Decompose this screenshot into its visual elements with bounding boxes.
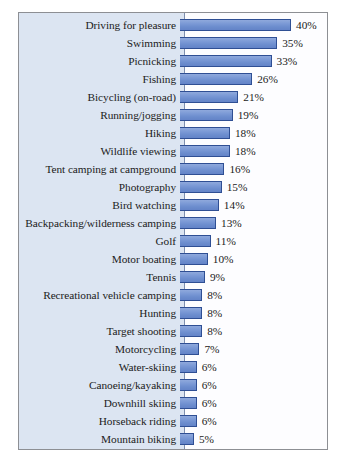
- bar-row: Horseback riding6%: [19, 412, 327, 430]
- bar-row: Motorcycling7%: [19, 340, 327, 358]
- bar-row: Tent camping at campground16%: [19, 160, 327, 178]
- bar-row: Water-skiing6%: [19, 358, 327, 376]
- bar: [180, 415, 197, 427]
- bar-value-label: 18%: [235, 145, 256, 158]
- bar-row: Canoeing/kayaking6%: [19, 376, 327, 394]
- bar-value-label: 6%: [202, 397, 217, 410]
- bar-track: 35%: [180, 34, 327, 52]
- bar-row: Target shooting8%: [19, 322, 327, 340]
- bar-value-label: 14%: [224, 199, 245, 212]
- bar-track: 6%: [180, 376, 327, 394]
- bar-row: Photography15%: [19, 178, 327, 196]
- bar-track: 13%: [180, 214, 327, 232]
- bar: [180, 91, 238, 103]
- bar-category-label: Backpacking/wilderness camping: [19, 217, 180, 230]
- bar-category-label: Golf: [19, 235, 180, 248]
- bar: [180, 253, 208, 265]
- bar-category-label: Photography: [19, 181, 180, 194]
- bar: [180, 433, 194, 445]
- bar: [180, 361, 197, 373]
- bar: [180, 55, 272, 67]
- bar-track: 21%: [180, 88, 327, 106]
- bar-value-label: 33%: [277, 55, 298, 68]
- bar-rows: Driving for pleasure40%Swimming35%Picnic…: [19, 13, 327, 450]
- bar-value-label: 11%: [216, 235, 236, 248]
- bar-category-label: Motor boating: [19, 253, 180, 266]
- bar: [180, 73, 252, 85]
- bar-track: 6%: [180, 394, 327, 412]
- bar-track: 11%: [180, 232, 327, 250]
- bar-value-label: 9%: [210, 271, 225, 284]
- bar-track: 15%: [180, 178, 327, 196]
- bar-category-label: Running/jogging: [19, 109, 180, 122]
- bar-value-label: 19%: [238, 109, 259, 122]
- bar-category-label: Bicycling (on-road): [19, 91, 180, 104]
- bar: [180, 289, 202, 301]
- bar-category-label: Wildlife viewing: [19, 145, 180, 158]
- bar-row: Recreational vehicle camping8%: [19, 286, 327, 304]
- bar: [180, 19, 291, 31]
- bar-row: Picnicking33%: [19, 52, 327, 70]
- bar-row: Hunting8%: [19, 304, 327, 322]
- bar-value-label: 35%: [282, 37, 303, 50]
- bar-track: 5%: [180, 448, 327, 450]
- bar-track: 19%: [180, 106, 327, 124]
- bar-row: Golf11%: [19, 232, 327, 250]
- bar: [180, 307, 202, 319]
- bar-row: Downhill skiing6%: [19, 394, 327, 412]
- bar-category-label: Hiking: [19, 127, 180, 140]
- bar-row: Bicycling (on-road)21%: [19, 88, 327, 106]
- bar-row: Wildlife viewing18%: [19, 142, 327, 160]
- bar-row: Bird watching14%: [19, 196, 327, 214]
- bar-value-label: 21%: [243, 91, 264, 104]
- bar-category-label: Recreational vehicle camping: [19, 289, 180, 302]
- bar-category-label: Water-skiing: [19, 361, 180, 374]
- bar-track: 8%: [180, 304, 327, 322]
- bar-value-label: 8%: [207, 289, 222, 302]
- bar-category-label: Hunting: [19, 307, 180, 320]
- bar-category-label: Fishing: [19, 73, 180, 86]
- bar-track: 6%: [180, 412, 327, 430]
- bar-value-label: 6%: [202, 361, 217, 374]
- bar-row: Motor boating10%: [19, 250, 327, 268]
- bar-value-label: 15%: [227, 181, 248, 194]
- bar: [180, 271, 205, 283]
- bar-category-label: Mountain biking: [19, 433, 180, 446]
- bar-row: Running/jogging19%: [19, 106, 327, 124]
- bar-category-label: Picnicking: [19, 55, 180, 68]
- bar-value-label: 8%: [207, 307, 222, 320]
- bar-row: Driving for pleasure40%: [19, 16, 327, 34]
- bar-row: Backpacking/wilderness camping13%: [19, 214, 327, 232]
- bar-category-label: Downhill skiing: [19, 397, 180, 410]
- bar-category-label: Bird watching: [19, 199, 180, 212]
- bar-track: 18%: [180, 142, 327, 160]
- bar-row: Swimming35%: [19, 34, 327, 52]
- bar-value-label: 5%: [199, 433, 214, 446]
- bar-track: 10%: [180, 250, 327, 268]
- bar: [180, 163, 224, 175]
- bar-category-label: Tennis: [19, 271, 180, 284]
- bar: [180, 235, 211, 247]
- bar-value-label: 6%: [202, 415, 217, 428]
- bar-track: 9%: [180, 268, 327, 286]
- bar: [180, 325, 202, 337]
- bar-track: 6%: [180, 358, 327, 376]
- bar: [180, 199, 219, 211]
- bar-value-label: 8%: [207, 325, 222, 338]
- bar-track: 8%: [180, 322, 327, 340]
- bar: [180, 127, 230, 139]
- bar-category-label: Tent camping at campground: [19, 163, 180, 176]
- bar-value-label: 16%: [229, 163, 250, 176]
- bar-value-label: 26%: [257, 73, 278, 86]
- bar: [180, 109, 233, 121]
- bar-row: Hiking18%: [19, 124, 327, 142]
- bar-track: 26%: [180, 70, 327, 88]
- bar-track: 18%: [180, 124, 327, 142]
- bar-track: 8%: [180, 286, 327, 304]
- bar-value-label: 7%: [204, 343, 219, 356]
- bar-category-label: Motorcycling: [19, 343, 180, 356]
- bar-value-label: 18%: [235, 127, 256, 140]
- bar-category-label: Canoeing/kayaking: [19, 379, 180, 392]
- bar-value-label: 40%: [296, 19, 317, 32]
- bar-value-label: 10%: [213, 253, 234, 266]
